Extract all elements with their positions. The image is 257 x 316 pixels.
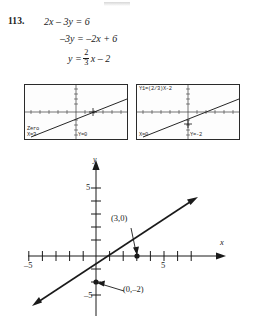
tick-label-y-5: 5 <box>86 182 90 192</box>
calculator-right-footer-right: Y=-2 <box>190 133 202 139</box>
calculator-left-graph <box>25 85 127 139</box>
zero-x-value: X=3 <box>27 133 39 139</box>
calculator-right-viewport: Y1=(2/3)X-2 X=0 Y=-2 <box>137 85 239 139</box>
point-label-y-intercept: (0,–2) <box>123 284 144 294</box>
cursor-crosshair <box>184 120 192 128</box>
equation-line-3: y =23x – 2 <box>68 50 110 68</box>
tick-label-x-neg5: –5 <box>24 260 33 270</box>
calculator-right-graph <box>137 85 239 139</box>
tick-label-x-5: 5 <box>161 260 165 270</box>
fraction-numerator: 2 <box>83 49 89 58</box>
textbook-solution-page: 113. 2x – 3y = 6 –3y = –2x + 6 y =23x – … <box>0 0 257 316</box>
equation-2-text: –3y = –2x + 6 <box>60 33 117 44</box>
tick-label-y-neg5: –5 <box>84 290 93 300</box>
equation-line-2: –3y = –2x + 6 <box>60 33 117 44</box>
point-y-intercept <box>93 279 98 284</box>
fraction-denominator: 3 <box>83 58 89 68</box>
axis-label-x: x <box>220 237 224 247</box>
calculator-right-header: Y1=(2/3)X-2 <box>139 86 172 92</box>
equation-1-text: 2x – 3y = 6 <box>44 16 90 27</box>
calculator-screen-value: Y1=(2/3)X-2 X=0 Y=-2 <box>136 84 240 140</box>
equation-3-lhs: y = <box>68 53 82 64</box>
fraction-two-thirds: 23 <box>83 49 89 67</box>
axis-label-y: y <box>93 155 97 164</box>
scan-artifact <box>104 2 130 6</box>
calculator-screen-zero: Zero X=3 Y=0 <box>24 84 128 140</box>
cursor-crosshair <box>89 108 97 116</box>
equation-3-rhs: x – 2 <box>91 53 110 64</box>
problem-number: 113. <box>8 16 25 26</box>
equation-line-1: 2x – 3y = 6 <box>44 16 90 27</box>
calculator-left-footer-left: Zero X=3 <box>27 127 39 139</box>
calculator-left-viewport: Zero X=3 Y=0 <box>25 85 127 139</box>
calculator-right-footer-left: X=0 <box>139 133 148 139</box>
calculator-left-footer-right: Y=0 <box>78 133 87 139</box>
coordinate-plane: y x 5 –5 –5 5 (3,0) (0,–2) <box>18 150 240 316</box>
point-label-x-intercept: (3,0) <box>111 213 127 223</box>
